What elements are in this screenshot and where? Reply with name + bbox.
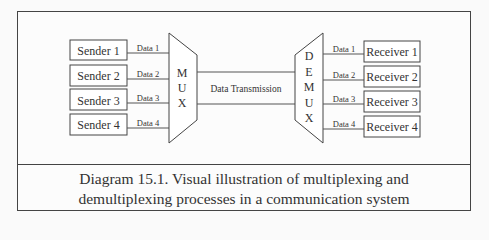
data-label: Data 3 (333, 94, 355, 104)
data-label: Data 2 (333, 70, 355, 80)
receiver-label: Receiver 3 (366, 95, 418, 109)
receiver-label: Receiver 2 (366, 70, 418, 84)
demux-letter: X (305, 111, 314, 125)
sender-label: Sender 1 (77, 44, 119, 58)
sender-links (127, 53, 169, 128)
receiver-3: Receiver 3 (364, 91, 420, 112)
transmission-label: Data Transmission (211, 84, 282, 94)
data-label: Data 3 (137, 93, 159, 103)
data-label: Data 4 (333, 119, 356, 129)
mux-block: M U X (169, 33, 197, 143)
sender-2: Sender 2 (70, 65, 127, 86)
mux-letter: M (177, 66, 188, 80)
demux-letter: M (304, 80, 315, 94)
demux-letter: U (305, 96, 314, 110)
receiver-2: Receiver 2 (364, 66, 420, 87)
receiver-1: Receiver 1 (364, 41, 420, 62)
mux-letter: X (178, 96, 187, 110)
demux-letter: D (305, 49, 314, 63)
receiver-4: Receiver 4 (364, 116, 420, 137)
sender-1: Sender 1 (70, 40, 127, 60)
figure-caption: Diagram 15.1. Visual illustration of mul… (17, 164, 471, 211)
receiver-label: Receiver 1 (366, 45, 418, 59)
caption-line-2: demultiplexing processes in a communicat… (17, 189, 471, 209)
data-label: Data 1 (333, 44, 355, 54)
sender-label: Sender 2 (77, 69, 119, 83)
demux-letter: E (305, 65, 312, 79)
demux-block: D E M U X (295, 33, 323, 143)
mux-letter: U (178, 81, 187, 95)
data-label: Data 1 (137, 43, 159, 53)
sender-3: Sender 3 (70, 89, 127, 110)
receiver-label: Receiver 4 (366, 120, 418, 134)
data-label: Data 2 (137, 69, 159, 79)
sender-4: Sender 4 (70, 114, 127, 135)
caption-line-1: Diagram 15.1. Visual illustration of mul… (17, 169, 471, 189)
data-label: Data 4 (137, 118, 160, 128)
receiver-links (323, 54, 364, 129)
sender-label: Sender 4 (77, 118, 119, 132)
sender-label: Sender 3 (77, 94, 119, 108)
